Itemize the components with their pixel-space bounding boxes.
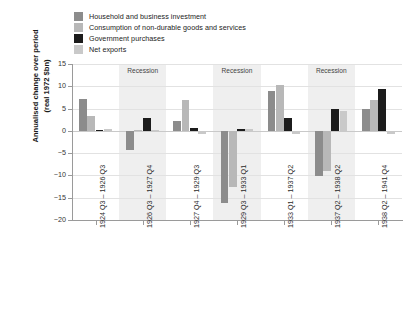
bar[interactable] bbox=[362, 109, 370, 131]
y-axis-tick-label: 0 bbox=[62, 127, 66, 135]
x-axis-tick-mark bbox=[284, 221, 285, 225]
bar[interactable] bbox=[143, 118, 151, 131]
x-axis-tick-label: 1938 Q2 – 1941 Q4 bbox=[381, 165, 389, 228]
bar[interactable] bbox=[151, 130, 159, 131]
legend-swatch-icon bbox=[74, 45, 83, 54]
recession-label: Recession bbox=[213, 67, 260, 74]
y-axis-title-line-1: Annualised change over period bbox=[31, 29, 40, 142]
y-axis-tick-mark bbox=[68, 86, 72, 87]
chart-figure: Household and business investmentConsump… bbox=[0, 0, 418, 323]
x-axis-tick-mark bbox=[96, 221, 97, 225]
bar[interactable] bbox=[134, 130, 142, 131]
bar[interactable] bbox=[104, 129, 112, 131]
x-axis-tick-label: 1926 Q3 – 1927 Q4 bbox=[146, 165, 154, 228]
y-axis-tick-mark bbox=[68, 153, 72, 154]
bar[interactable] bbox=[276, 85, 284, 130]
y-axis-tick-label: 10 bbox=[58, 82, 66, 90]
bar[interactable] bbox=[221, 131, 229, 203]
bar[interactable] bbox=[245, 129, 253, 131]
y-axis-title: Annualised change over period (real 1972… bbox=[30, 0, 52, 174]
y-axis-tick-mark bbox=[68, 131, 72, 132]
bar[interactable] bbox=[126, 131, 134, 150]
x-axis-tick-label: 1924 Q3 – 1926 Q3 bbox=[99, 165, 107, 228]
legend-swatch-icon bbox=[74, 23, 83, 32]
legend-item[interactable]: Household and business investment bbox=[74, 11, 334, 21]
legend-item[interactable]: Consumption of non-durable goods and ser… bbox=[74, 22, 334, 32]
bar[interactable] bbox=[229, 131, 237, 187]
bar[interactable] bbox=[198, 131, 206, 134]
y-axis-tick-label: −20 bbox=[54, 216, 66, 224]
bar[interactable] bbox=[340, 111, 348, 131]
bar[interactable] bbox=[87, 116, 95, 131]
y-axis-tick-mark bbox=[68, 220, 72, 221]
bar[interactable] bbox=[96, 130, 104, 131]
bar[interactable] bbox=[237, 129, 245, 131]
zero-line bbox=[72, 131, 402, 132]
recession-label: Recession bbox=[119, 67, 166, 74]
legend-item-label: Net exports bbox=[89, 45, 126, 54]
y-axis-tick-label: −10 bbox=[54, 171, 66, 179]
y-axis-tick-label: 15 bbox=[58, 60, 66, 68]
plot-area: RecessionRecessionRecession bbox=[72, 64, 402, 220]
gridline bbox=[72, 198, 402, 199]
bar[interactable] bbox=[323, 131, 331, 171]
bar[interactable] bbox=[268, 91, 276, 131]
gridline bbox=[72, 64, 402, 65]
x-axis-tick-mark bbox=[143, 221, 144, 225]
bar[interactable] bbox=[387, 131, 395, 134]
y-axis-tick-mark bbox=[68, 198, 72, 199]
y-axis-tick-mark bbox=[68, 175, 72, 176]
chart-legend: Household and business investmentConsump… bbox=[74, 11, 334, 55]
x-axis-tick-label: 1937 Q2 – 1938 Q2 bbox=[334, 165, 342, 228]
y-axis-title-line-2: (real 1972 $bn) bbox=[42, 59, 51, 112]
gridline bbox=[72, 109, 402, 110]
legend-swatch-icon bbox=[74, 34, 83, 43]
bar[interactable] bbox=[331, 109, 339, 131]
bar[interactable] bbox=[182, 100, 190, 131]
y-axis-tick-label: 5 bbox=[62, 105, 66, 113]
legend-item-label: Government purchases bbox=[89, 34, 165, 43]
legend-item-label: Household and business investment bbox=[89, 12, 206, 21]
legend-item-label: Consumption of non-durable goods and ser… bbox=[89, 23, 246, 32]
bar[interactable] bbox=[370, 100, 378, 131]
bar[interactable] bbox=[79, 99, 87, 131]
gridline bbox=[72, 86, 402, 87]
bar[interactable] bbox=[190, 128, 198, 131]
x-axis-tick-mark bbox=[237, 221, 238, 225]
legend-swatch-icon bbox=[74, 12, 83, 21]
bar[interactable] bbox=[173, 121, 181, 130]
gridline bbox=[72, 153, 402, 154]
y-axis-tick-label: −5 bbox=[58, 149, 66, 157]
y-axis-tick-mark bbox=[68, 64, 72, 65]
x-axis-tick-label: 1933 Q1 – 1937 Q2 bbox=[287, 165, 295, 228]
bar[interactable] bbox=[378, 89, 386, 131]
y-axis-tick-mark bbox=[68, 109, 72, 110]
x-axis-tick-mark bbox=[190, 221, 191, 225]
bar[interactable] bbox=[292, 131, 300, 134]
y-axis-spine bbox=[72, 64, 73, 221]
recession-label: Recession bbox=[308, 67, 355, 74]
gridline bbox=[72, 175, 402, 176]
x-axis-tick-label: 1929 Q3 – 1933 Q1 bbox=[240, 165, 248, 228]
x-axis-tick-label: 1927 Q4 – 1929 Q3 bbox=[193, 165, 201, 228]
legend-item[interactable]: Government purchases bbox=[74, 33, 334, 43]
bar[interactable] bbox=[315, 131, 323, 176]
bar[interactable] bbox=[284, 118, 292, 131]
legend-item[interactable]: Net exports bbox=[74, 44, 334, 54]
y-axis-tick-label: −15 bbox=[54, 194, 66, 202]
